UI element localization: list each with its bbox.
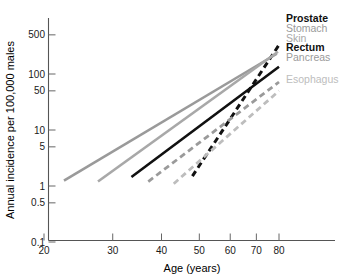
y-tick-label: 50 bbox=[34, 85, 46, 96]
y-axis-ticks: 0.10.5151050100500 bbox=[28, 29, 55, 247]
x-tick-label: 20 bbox=[38, 245, 50, 256]
x-tick-label: 30 bbox=[107, 245, 119, 256]
x-tick-label: 70 bbox=[251, 245, 263, 256]
y-tick-label: 1 bbox=[39, 181, 45, 192]
x-tick-label: 50 bbox=[194, 245, 206, 256]
legend-label-pancreas: Pancreas bbox=[286, 51, 330, 63]
incidence-vs-age-chart: 0.10.5151050100500 20304050607080 Prosta… bbox=[0, 0, 343, 280]
y-tick-label: 500 bbox=[28, 29, 45, 40]
series-line-rectum bbox=[131, 67, 279, 177]
data-series-group bbox=[64, 45, 279, 184]
x-axis-ticks: 20304050607080 bbox=[38, 234, 285, 257]
x-tick-label: 60 bbox=[225, 245, 237, 256]
legend-label-esophagus: Esophagus bbox=[286, 73, 339, 85]
y-tick-label: 10 bbox=[34, 125, 46, 136]
y-axis-title: Annual incidence per 100,000 males bbox=[4, 41, 16, 219]
y-tick-label: 5 bbox=[39, 141, 45, 152]
x-tick-label: 40 bbox=[156, 245, 168, 256]
x-axis-title: Age (years) bbox=[164, 262, 221, 274]
chart-figure: 0.10.5151050100500 20304050607080 Prosta… bbox=[0, 0, 343, 280]
y-tick-label: 100 bbox=[28, 69, 45, 80]
series-line-stomach bbox=[64, 54, 277, 181]
chart-legend: ProstateStomachSkinRectumPancreasEsophag… bbox=[286, 12, 339, 85]
y-tick-label: 0.5 bbox=[31, 197, 45, 208]
x-tick-label: 80 bbox=[273, 245, 285, 256]
